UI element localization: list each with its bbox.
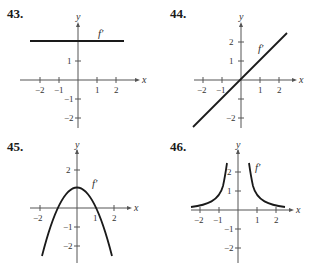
svg-text:−1: −1 [213, 215, 223, 225]
svg-text:f′: f′ [92, 177, 98, 189]
svg-text:−1: −1 [63, 222, 73, 232]
svg-text:−2: −2 [64, 113, 74, 123]
svg-text:2: 2 [274, 215, 279, 225]
svg-text:f′: f′ [255, 161, 261, 173]
svg-text:1: 1 [67, 56, 72, 66]
graph-46: x y f′ −2−1 12 21 −1−2 [157, 135, 314, 269]
svg-text:1: 1 [255, 215, 260, 225]
svg-text:x: x [133, 202, 139, 213]
svg-text:y: y [235, 139, 241, 150]
svg-text:2: 2 [277, 85, 282, 95]
svg-text:1: 1 [229, 56, 234, 66]
svg-text:−2: −2 [33, 213, 43, 223]
svg-text:−2: −2 [197, 85, 207, 95]
svg-text:f′: f′ [98, 27, 104, 39]
svg-text:1: 1 [95, 85, 100, 95]
svg-text:−1: −1 [224, 224, 234, 234]
graph-44: x y f′ −2−1 12 21 −2 [157, 0, 314, 135]
svg-text:2: 2 [229, 37, 234, 47]
svg-text:−1: −1 [54, 85, 64, 95]
svg-text:2: 2 [66, 165, 71, 175]
svg-text:−2: −2 [226, 113, 236, 123]
svg-text:2: 2 [112, 213, 117, 223]
svg-text:x: x [141, 74, 147, 85]
graph-45: x y f′ −2 12 2 −1−2 [0, 135, 157, 269]
svg-text:2: 2 [114, 85, 119, 95]
svg-text:1: 1 [258, 85, 263, 95]
graph-43: x y f′ −2−1 12 1 −1−2 [0, 0, 157, 135]
svg-text:y: y [74, 139, 80, 150]
svg-text:y: y [75, 11, 81, 22]
svg-text:y: y [238, 11, 244, 22]
svg-text:x: x [298, 74, 304, 85]
svg-text:x: x [295, 204, 301, 215]
svg-text:1: 1 [93, 213, 98, 223]
svg-text:2: 2 [227, 167, 232, 177]
svg-text:−2: −2 [224, 243, 234, 253]
svg-text:−2: −2 [63, 241, 73, 251]
svg-text:−2: −2 [194, 215, 204, 225]
svg-text:f′: f′ [258, 42, 264, 54]
svg-text:−1: −1 [64, 94, 74, 104]
svg-text:−1: −1 [216, 85, 226, 95]
curve-left [191, 163, 227, 207]
svg-text:1: 1 [227, 186, 232, 196]
axes [20, 24, 135, 128]
svg-text:−2: −2 [35, 85, 45, 95]
